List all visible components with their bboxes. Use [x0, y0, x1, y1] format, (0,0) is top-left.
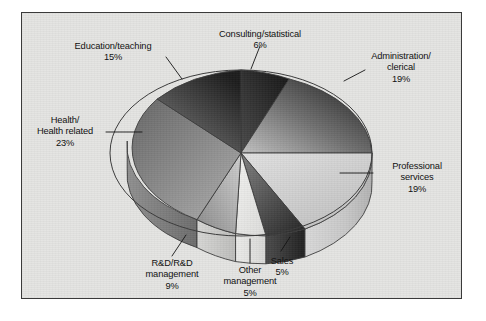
- label-administration-line3: 19%: [346, 74, 456, 85]
- label-professional-line3: 19%: [374, 184, 460, 195]
- label-consulting-statistical: Consulting/statistical 6%: [170, 29, 350, 52]
- label-consulting-line2: 6%: [170, 40, 350, 51]
- label-education-line1: Education/teaching: [60, 41, 166, 52]
- leader-line-education: [166, 57, 182, 79]
- label-education-line2: 15%: [60, 52, 166, 63]
- label-professional-services: Professional services 19%: [374, 161, 460, 195]
- label-consulting-line1: Consulting/statistical: [170, 29, 350, 40]
- label-rd-line1: R&D/R&D: [110, 258, 234, 269]
- label-rd-line3: 9%: [110, 281, 234, 292]
- label-health-line3: 23%: [24, 138, 106, 149]
- chart-panel: Consulting/statistical 6% Administration…: [21, 12, 462, 299]
- label-rd-line2: management: [110, 269, 234, 280]
- label-professional-line2: services: [374, 172, 460, 183]
- label-health-related: Health/ Health related 23%: [24, 115, 106, 149]
- label-administration-line2: clerical: [346, 62, 456, 73]
- label-administration-clerical: Administration/ clerical 19%: [346, 51, 456, 85]
- label-professional-line1: Professional: [374, 161, 460, 172]
- label-administration-line1: Administration/: [346, 51, 456, 62]
- label-health-line2: Health related: [24, 126, 106, 137]
- label-education-teaching: Education/teaching 15%: [60, 41, 166, 64]
- label-rd-management: R&D/R&D management 9%: [110, 258, 234, 292]
- label-health-line1: Health/: [24, 115, 106, 126]
- figure-root: Consulting/statistical 6% Administration…: [0, 0, 486, 321]
